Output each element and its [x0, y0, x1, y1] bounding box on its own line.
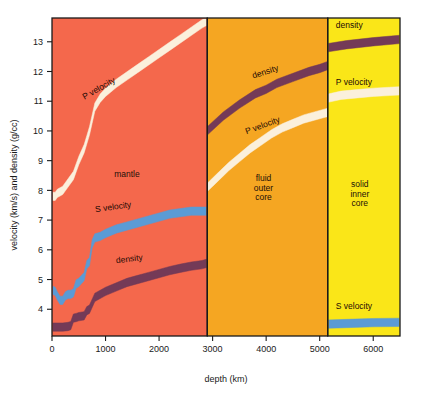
y-tick-label-8: 8 — [38, 186, 43, 196]
region-label-line: inner — [350, 189, 369, 199]
curve-label-s-velocity-inner-core: S velocity — [336, 301, 373, 311]
region-label-mantle: mantle — [114, 169, 140, 179]
y-tick-label-10: 10 — [33, 126, 43, 136]
seismic-profile-figure: 010002000300040005000600045678910111213 … — [0, 0, 421, 393]
region-label-line: mantle — [114, 169, 140, 179]
region-label-line: core — [352, 198, 369, 208]
x-tick-label-4000: 4000 — [256, 344, 276, 354]
y-tick-label-5: 5 — [38, 275, 43, 285]
region-label-fluid-outer-core: fluidoutercore — [254, 173, 274, 202]
y-tick-label-12: 12 — [33, 67, 43, 77]
x-tick-label-1000: 1000 — [96, 344, 116, 354]
region-label-solid-inner-core: solidinnercore — [350, 179, 369, 208]
y-tick-label-13: 13 — [33, 37, 43, 47]
y-tick-label-9: 9 — [38, 156, 43, 166]
curve-s-velocity-solid-inner-core — [328, 318, 400, 328]
y-tick-label-6: 6 — [38, 245, 43, 255]
curve-label-density-inner-core: density — [336, 20, 364, 30]
region-label-line: fluid — [256, 173, 272, 183]
region-solid-inner-core — [328, 18, 400, 336]
y-tick-label-4: 4 — [38, 304, 43, 314]
region-label-line: core — [255, 192, 272, 202]
chart-canvas: 010002000300040005000600045678910111213 … — [0, 0, 421, 393]
region-label-line: solid — [351, 179, 369, 189]
y-tick-label-7: 7 — [38, 215, 43, 225]
region-label-line: outer — [254, 183, 274, 193]
x-tick-label-3000: 3000 — [203, 344, 223, 354]
y-axis-title: velocity (km/s) and density (g/cc) — [9, 119, 19, 250]
curve-label-p-velocity-inner-core: P velocity — [336, 77, 373, 87]
x-tick-label-0: 0 — [49, 344, 54, 354]
x-tick-label-2000: 2000 — [149, 344, 169, 354]
x-tick-label-5000: 5000 — [310, 344, 330, 354]
x-axis-title: depth (km) — [204, 374, 247, 384]
x-tick-label-6000: 6000 — [363, 344, 383, 354]
y-tick-label-11: 11 — [34, 96, 43, 106]
